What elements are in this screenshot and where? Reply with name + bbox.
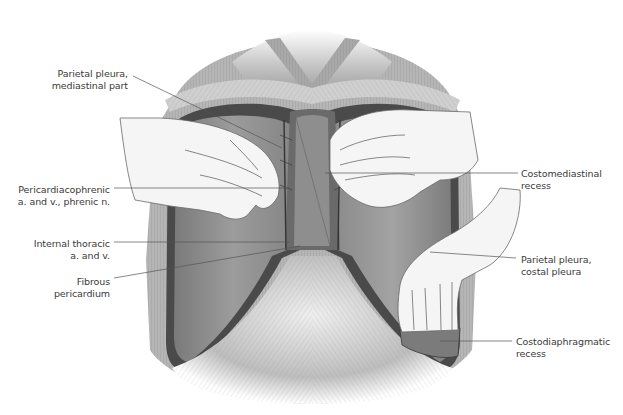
label-parietal-pleura-mediastinal: Parietal pleura, mediastinal part bbox=[24, 68, 128, 92]
label-internal-thoracic: Internal thoracic a. and v. bbox=[0, 238, 110, 262]
label-line: pericardium bbox=[0, 288, 110, 300]
label-pericardiacophrenic: Pericardiacophrenic a. and v., phrenic n… bbox=[0, 184, 110, 208]
label-parietal-pleura-costal: Parietal pleura, costal pleura bbox=[521, 254, 591, 278]
label-line: costal pleura bbox=[521, 266, 591, 278]
label-fibrous-pericardium: Fibrous pericardium bbox=[0, 276, 110, 300]
label-line: a. and v., phrenic n. bbox=[0, 196, 110, 208]
label-line: mediastinal part bbox=[24, 80, 128, 92]
label-line: Costodiaphragmatic bbox=[516, 336, 610, 348]
label-line: Costomediastinal bbox=[521, 168, 602, 180]
label-line: recess bbox=[521, 180, 602, 192]
label-costomediastinal-recess: Costomediastinal recess bbox=[521, 168, 602, 192]
label-line: Internal thoracic bbox=[0, 238, 110, 250]
label-line: recess bbox=[516, 348, 610, 360]
label-line: Pericardiacophrenic bbox=[0, 184, 110, 196]
label-line: Parietal pleura, bbox=[521, 254, 591, 266]
label-line: Fibrous bbox=[0, 276, 110, 288]
label-costodiaphragmatic-recess: Costodiaphragmatic recess bbox=[516, 336, 610, 360]
label-line: Parietal pleura, bbox=[24, 68, 128, 80]
label-line: a. and v. bbox=[0, 250, 110, 262]
